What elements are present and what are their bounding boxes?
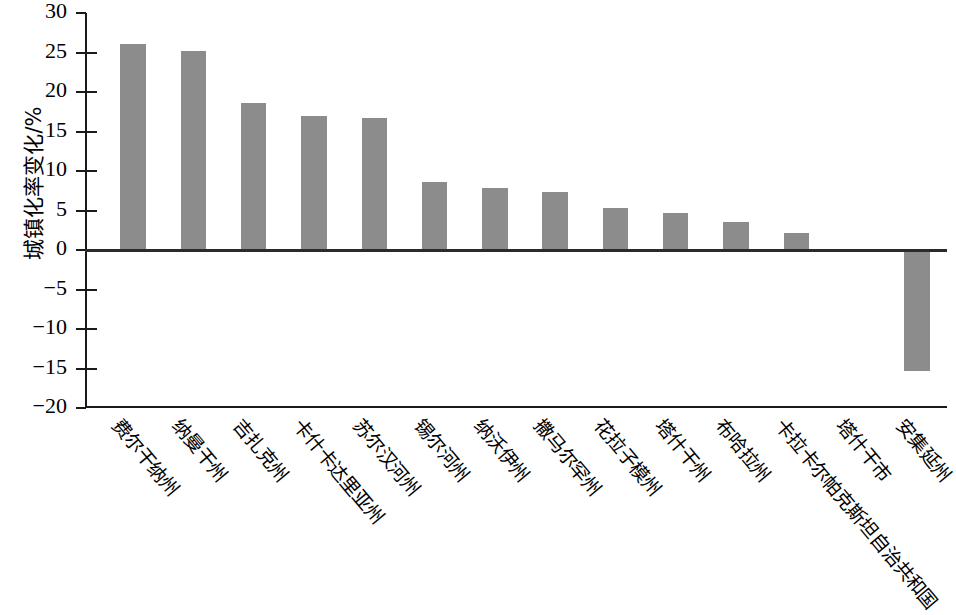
y-tick-inner — [85, 52, 97, 54]
x-axis-label: 安集延州 — [892, 416, 954, 485]
bar — [603, 208, 628, 250]
y-tick-label: 5 — [56, 198, 67, 220]
y-tick-label: 15 — [45, 119, 67, 141]
y-tick-inner — [85, 368, 97, 370]
y-tick-label: −5 — [44, 277, 67, 299]
y-tick-label: 20 — [45, 79, 67, 101]
y-tick-label: −20 — [33, 395, 67, 417]
bar — [663, 213, 688, 250]
y-axis-title: 城镇化率变化/% — [17, 58, 47, 308]
bar — [181, 51, 206, 250]
bar — [301, 116, 326, 250]
y-tick-label: 0 — [56, 237, 67, 259]
y-tick-label: −15 — [33, 356, 67, 378]
bar — [241, 103, 266, 250]
bar — [120, 44, 145, 250]
x-axis-label: 塔什干州 — [651, 416, 713, 485]
plot-area: 302520151050−5−10−15−20 — [85, 13, 947, 408]
x-axis-label: 吉扎克州 — [229, 416, 291, 485]
x-axis-label: 纳沃伊州 — [470, 416, 532, 485]
y-tick-inner — [85, 210, 97, 212]
zero-baseline — [85, 249, 947, 252]
x-axis-label: 塔什干市 — [832, 416, 894, 485]
y-tick-label: 30 — [45, 0, 67, 22]
bar — [362, 118, 387, 250]
y-tick-label: 25 — [45, 40, 67, 62]
y-tick-label: −10 — [33, 316, 67, 338]
x-axis-label: 纳曼干州 — [169, 416, 231, 485]
y-tick-inner — [85, 289, 97, 291]
bar — [904, 250, 929, 371]
y-tick-inner — [85, 131, 97, 133]
y-tick-inner — [85, 91, 97, 93]
bar — [482, 188, 507, 250]
y-tick-label: 10 — [45, 158, 67, 180]
x-axis-labels: 费尔干纳州纳曼干州吉扎克州卡什卡达里亚州苏尔汉河州锡尔河州纳沃伊州撒马尔罕州花拉… — [85, 408, 947, 615]
x-axis-label: 锡尔河州 — [410, 416, 472, 485]
y-tick-inner — [85, 170, 97, 172]
bar — [422, 182, 447, 250]
y-tick: 30 — [76, 12, 86, 14]
bar — [784, 233, 809, 250]
bar — [542, 192, 567, 250]
x-axis-label: 布哈拉州 — [711, 416, 773, 485]
y-tick-inner — [85, 328, 97, 330]
bar — [723, 222, 748, 250]
